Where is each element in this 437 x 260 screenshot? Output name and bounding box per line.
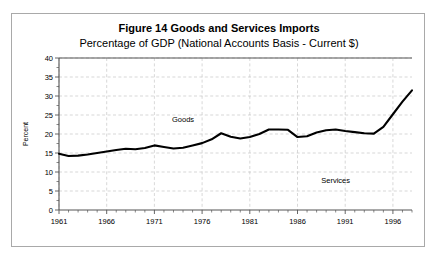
svg-text:1961: 1961 [51,217,68,226]
svg-text:1966: 1966 [98,217,115,226]
figure-frame: Figure 14 Goods and Services Imports Per… [11,13,425,247]
annotation-services: Services [321,176,350,185]
annotation-goods: Goods [172,115,194,124]
y-axis-ticks [55,58,59,210]
svg-text:1996: 1996 [385,217,402,226]
svg-text:30: 30 [45,92,53,101]
x-axis-tick-labels: 19611966197119761981198619911996 [51,217,402,226]
svg-text:10: 10 [45,168,53,177]
svg-text:20: 20 [45,130,53,139]
x-axis-ticks [59,210,412,214]
svg-text:25: 25 [45,111,53,120]
svg-text:40: 40 [45,54,53,63]
svg-text:1976: 1976 [194,217,211,226]
chart-plot-area: 0510152025303540 19611966197119761981198… [12,14,426,248]
svg-text:35: 35 [45,73,53,82]
svg-text:15: 15 [45,149,53,158]
y-axis-title: Percent [22,122,29,146]
svg-text:0: 0 [49,206,53,215]
svg-text:1981: 1981 [241,217,258,226]
svg-text:1991: 1991 [337,217,354,226]
y-axis-tick-labels: 0510152025303540 [45,54,53,215]
svg-text:1971: 1971 [146,217,163,226]
svg-text:1986: 1986 [289,217,306,226]
gridlines [59,58,412,210]
line-chart: 0510152025303540 19611966197119761981198… [12,14,426,248]
series-line-goods-and-services [59,90,412,156]
svg-text:5: 5 [49,187,53,196]
